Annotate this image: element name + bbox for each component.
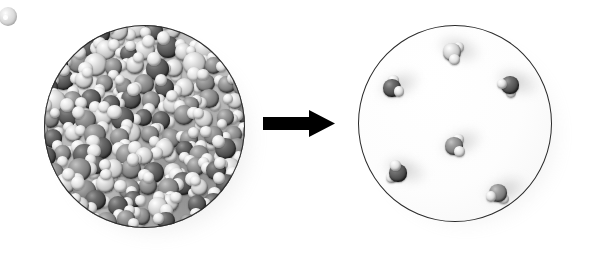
gas-vessel-contents bbox=[358, 25, 552, 222]
hydrogen-atom bbox=[127, 83, 139, 95]
hydrogen-atom bbox=[212, 135, 225, 148]
hydrogen-atom bbox=[170, 192, 181, 203]
hydrogen-atom bbox=[125, 41, 136, 52]
figure-canvas: Liquid to gas phase change of water bbox=[0, 0, 589, 253]
hydrogen-atom bbox=[100, 169, 112, 181]
hydrogen-atom bbox=[193, 108, 204, 119]
hydrogen-atom bbox=[114, 180, 127, 193]
hydrogen-atom bbox=[70, 193, 81, 204]
transition-arrow bbox=[263, 108, 335, 140]
figure-title: Liquid to gas phase change of water bbox=[0, 0, 1, 1]
hydrogen-atom bbox=[50, 108, 60, 118]
hydrogen-atom bbox=[190, 176, 200, 186]
hydrogen-atom bbox=[394, 86, 405, 97]
hydrogen-atom bbox=[223, 94, 233, 104]
hydrogen-atom bbox=[216, 61, 227, 72]
stray-sphere bbox=[0, 7, 17, 26]
hydrogen-atom bbox=[203, 35, 215, 47]
arrow-shape bbox=[263, 110, 335, 137]
hydrogen-atom bbox=[107, 105, 121, 119]
gas-phase-vessel bbox=[358, 25, 552, 222]
hydrogen-atom bbox=[127, 153, 140, 166]
hydrogen-atom bbox=[197, 69, 208, 80]
hydrogen-atom bbox=[454, 146, 465, 157]
stray-sphere-highlight bbox=[3, 15, 8, 20]
hydrogen-atom bbox=[200, 126, 211, 137]
hydrogen-atom bbox=[155, 74, 167, 86]
hydrogen-atom bbox=[82, 67, 93, 78]
hydrogen-atom bbox=[216, 200, 229, 213]
hydrogen-atom bbox=[128, 218, 139, 228]
hydrogen-atom bbox=[177, 222, 187, 228]
hydrogen-atom bbox=[71, 176, 85, 190]
liquid-phase-vessel bbox=[44, 25, 245, 228]
hydrogen-atom bbox=[153, 213, 164, 224]
hydrogen-atom bbox=[135, 195, 146, 206]
hydrogen-atom bbox=[390, 160, 401, 171]
hydrogen-atom bbox=[449, 54, 460, 65]
liquid-vessel-contents bbox=[44, 25, 245, 228]
